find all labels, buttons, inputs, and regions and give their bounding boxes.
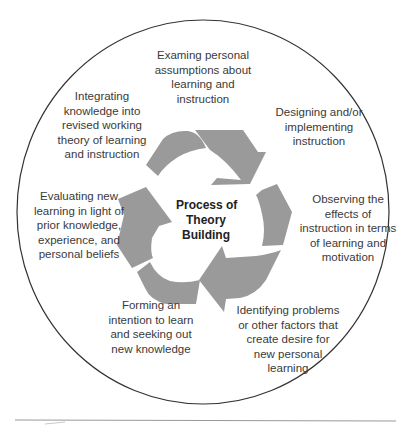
step-text-line: implementing bbox=[269, 120, 369, 135]
step-text-line: Identifying problems bbox=[230, 303, 346, 318]
bottom-rule-accent bbox=[45, 422, 65, 424]
center-title-line: Process of bbox=[176, 198, 236, 213]
step-text-line: experience, and bbox=[25, 233, 133, 248]
step-forming-intention: Forming an intention to learn and seekin… bbox=[96, 298, 206, 356]
step-text-line: revised working bbox=[48, 118, 156, 133]
step-text-line: Examing personal bbox=[148, 48, 258, 63]
step-text-line: Forming an bbox=[96, 298, 206, 313]
step-text-line: and seeking out bbox=[96, 327, 206, 342]
step-text-line: effects of bbox=[298, 207, 398, 222]
step-text-line: Observing the bbox=[298, 192, 398, 207]
step-text-line: instruction bbox=[148, 92, 258, 107]
step-text-line: create desire for bbox=[230, 332, 346, 347]
step-text-line: knowledge into bbox=[48, 104, 156, 119]
center-title-line: Building bbox=[176, 228, 236, 243]
step-text-line: instruction in terms bbox=[298, 221, 398, 236]
step-text-line: Evaluating new bbox=[25, 189, 133, 204]
arrow-right-tail bbox=[256, 184, 292, 246]
bottom-rule bbox=[15, 420, 396, 421]
step-text-line: Designing and/or bbox=[269, 105, 369, 120]
arrow-top-head bbox=[195, 130, 266, 185]
step-integrating-knowledge: Integrating knowledge into revised worki… bbox=[48, 89, 156, 162]
step-text-line: learning bbox=[230, 361, 346, 376]
step-text-line: Integrating bbox=[48, 89, 156, 104]
step-identifying-problems: Identifying problems or other factors th… bbox=[230, 303, 346, 376]
step-text-line: new personal bbox=[230, 347, 346, 362]
step-observing-effects: Observing the effects of instruction in … bbox=[298, 192, 398, 265]
step-designing-instruction: Designing and/or implementing instructio… bbox=[269, 105, 369, 149]
step-text-line: motivation bbox=[298, 250, 398, 265]
step-evaluating-learning: Evaluating new learning in light of prio… bbox=[25, 189, 133, 262]
step-text-line: theory of learning bbox=[48, 133, 156, 148]
step-examining-assumptions: Examing personal assumptions about learn… bbox=[148, 48, 258, 106]
step-text-line: assumptions about bbox=[148, 63, 258, 78]
center-title: Process of Theory Building bbox=[176, 198, 236, 243]
step-text-line: or other factors that bbox=[230, 318, 346, 333]
step-text-line: intention to learn bbox=[96, 313, 206, 328]
step-text-line: learning and bbox=[148, 77, 258, 92]
step-text-line: and instruction bbox=[48, 147, 156, 162]
step-text-line: prior knowledge, bbox=[25, 218, 133, 233]
step-text-line: instruction bbox=[269, 134, 369, 149]
step-text-line: personal beliefs bbox=[25, 247, 133, 262]
center-title-line: Theory bbox=[176, 213, 236, 228]
step-text-line: learning in light of bbox=[25, 204, 133, 219]
step-text-line: new knowledge bbox=[96, 342, 206, 357]
step-text-line: of learning and bbox=[298, 236, 398, 251]
